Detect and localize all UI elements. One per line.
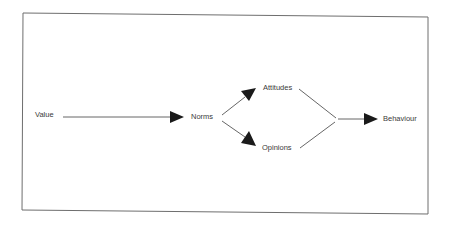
- edge-norms-opinions: [222, 121, 245, 137]
- node-attitudes: Attitudes: [263, 84, 292, 92]
- node-value: Value: [35, 111, 54, 119]
- node-opinions: Opinions: [262, 144, 292, 152]
- diagram-border: [22, 13, 428, 214]
- diagram-canvas: [0, 0, 449, 228]
- edge-attitudes-merge: [299, 89, 336, 118]
- edge-norms-attitudes: [222, 97, 245, 115]
- arrowhead-icon: [241, 131, 256, 146]
- node-norms: Norms: [191, 113, 213, 121]
- edge-opinions-merge: [300, 122, 335, 148]
- arrowhead-icon: [364, 113, 378, 125]
- arrowhead-icon: [170, 111, 184, 123]
- node-behaviour: Behaviour: [383, 115, 417, 123]
- arrowhead-icon: [241, 88, 256, 101]
